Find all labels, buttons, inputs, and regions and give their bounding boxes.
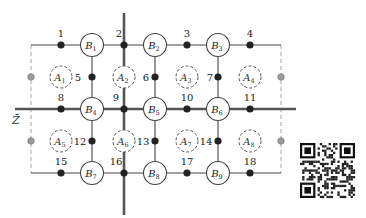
node-number-label: 16: [110, 156, 123, 167]
qr-code: [300, 143, 355, 198]
b-node-b6: B6: [207, 98, 230, 121]
node-number-label: 7: [207, 72, 213, 83]
b-node-b2: B2: [144, 34, 167, 57]
ghost-node: [278, 74, 285, 81]
node-number-label: 10: [181, 92, 194, 103]
a-node-a3: A3: [176, 66, 198, 88]
ghost-node: [278, 138, 285, 145]
b-node-b8: B8: [144, 162, 167, 185]
b-nodes: B1B2B3B4B5B6B7B8B9: [81, 34, 230, 185]
b-node-b9: B9: [207, 162, 230, 185]
z-bar-label: Z̄: [11, 114, 20, 127]
node-number-label: 15: [55, 156, 68, 167]
b-node-b7: B7: [81, 162, 104, 185]
node-number-label: 4: [247, 28, 253, 39]
node-number-label: 1: [58, 28, 64, 39]
node-3: 3: [183, 28, 190, 49]
a-node-a1: A1: [50, 66, 72, 88]
node-number-label: 12: [74, 136, 87, 147]
node-number-label: 13: [137, 136, 150, 147]
a-node-a8: A8: [239, 130, 261, 152]
node-number-label: 2: [116, 28, 122, 39]
node-number-label: 8: [58, 92, 64, 103]
node-number-label: 18: [244, 156, 257, 167]
node-number-label: 14: [200, 136, 213, 147]
a-node-a5: A5: [50, 130, 72, 152]
b-node-b1: B1: [81, 34, 104, 57]
node-number-label: 17: [181, 156, 194, 167]
node-number-label: 3: [184, 28, 190, 39]
node-7: 7: [207, 72, 222, 83]
node-number-label: 9: [113, 92, 119, 103]
b-node-b3: B3: [207, 34, 230, 57]
node-6: 6: [143, 72, 159, 83]
node-8: 8: [57, 92, 64, 113]
node-1: 1: [57, 28, 64, 49]
b-node-b4: B4: [81, 98, 104, 121]
node-number-label: 5: [75, 72, 81, 83]
diagram-canvas: A1A2A3A4A5A6A7A8 B1B2B3B4B5B6B7B8B9 1234…: [0, 0, 366, 218]
a-node-a4: A4: [239, 66, 261, 88]
node-number-label: 11: [244, 92, 257, 103]
b-node-b5: B5: [144, 98, 167, 121]
a-node-a7: A7: [176, 130, 198, 152]
ghost-node: [28, 74, 35, 81]
node-number-label: 6: [143, 72, 149, 83]
ghost-node: [28, 138, 35, 145]
a-node-a6: A6: [113, 130, 135, 152]
node-4: 4: [246, 28, 253, 49]
a-node-a2: A2: [113, 66, 135, 88]
lattice-diagram: A1A2A3A4A5A6A7A8 B1B2B3B4B5B6B7B8B9 1234…: [0, 0, 366, 218]
